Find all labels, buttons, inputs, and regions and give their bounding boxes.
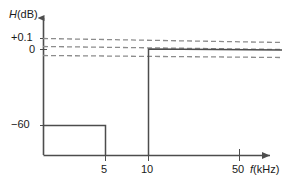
x-axis-label: f(kHz) bbox=[250, 164, 279, 175]
y-axis-unit: (dB) bbox=[17, 8, 38, 20]
x-tick-label-5: 5 bbox=[101, 164, 107, 175]
x-tick-label-50: 50 bbox=[232, 164, 244, 175]
y-axis-symbol: H bbox=[9, 8, 17, 20]
chart-canvas bbox=[0, 0, 293, 183]
x-tick-label-10: 10 bbox=[141, 164, 153, 175]
lower-ripple-limit-dashed-line bbox=[43, 56, 282, 58]
stopband-mask-path bbox=[44, 126, 106, 156]
filter-response-figure: H(dB) f(kHz) +0.1 0 −60 5 10 50 bbox=[0, 0, 293, 183]
y-tick-label-plus01: +0.1 bbox=[11, 32, 33, 43]
y-axis-label: H(dB) bbox=[9, 9, 38, 20]
upper-ripple-limit-dashed-line bbox=[43, 39, 282, 43]
y-tick-label-zero: 0 bbox=[29, 44, 35, 55]
passband-response-path bbox=[149, 49, 283, 156]
y-tick-label-minus60: −60 bbox=[11, 119, 30, 130]
x-axis-unit: (kHz) bbox=[253, 163, 279, 175]
